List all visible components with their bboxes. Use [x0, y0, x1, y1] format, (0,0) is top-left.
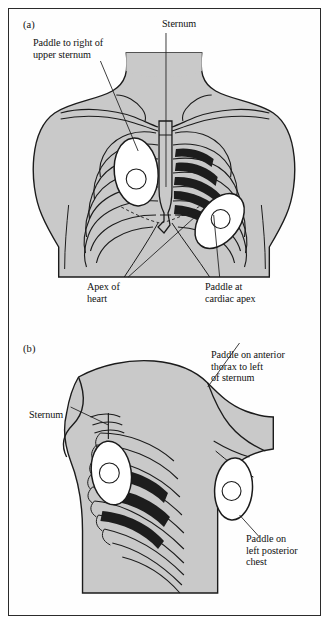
label-paddle-at-cardiac-apex: Paddle at cardiac apex: [205, 281, 305, 304]
panel-b-letter: (b): [23, 343, 36, 354]
label-sternum-anterior: Sternum: [162, 18, 232, 30]
label-paddle-on-anterior-thorax: Paddle on anterior thorax to left of ste…: [211, 349, 317, 384]
panel-a-anterior-view: (a) Paddle to right of upper sternum Ste…: [9, 9, 320, 321]
label-apex-of-heart: Apex of heart: [87, 281, 157, 304]
label-sternum-lateral: Sternum: [29, 409, 93, 421]
figure-frame: (a) Paddle to right of upper sternum Ste…: [8, 8, 321, 616]
panel-b-lateral-view: (b) Paddle on anterior thorax to left of…: [9, 321, 320, 616]
paddle-electrode-circle: [126, 169, 146, 189]
label-paddle-on-left-posterior-chest: Paddle on left posterior chest: [246, 533, 321, 568]
panel-a-letter: (a): [23, 19, 35, 30]
paddle-electrode-circle: [222, 482, 241, 501]
label-paddle-to-right-of-upper-sternum: Paddle to right of upper sternum: [33, 37, 163, 60]
torso-outline-anterior: [33, 53, 295, 277]
paddle-electrode-circle: [99, 463, 119, 483]
